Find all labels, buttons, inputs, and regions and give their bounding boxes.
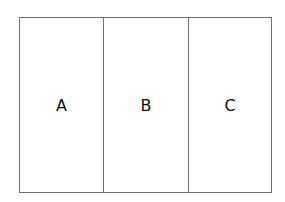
panel-a: A [20, 18, 104, 192]
panel-c-label: C [224, 96, 235, 115]
three-panel-diagram: A B C [19, 17, 272, 193]
panel-a-label: A [56, 96, 67, 115]
panel-b-label: B [141, 96, 152, 115]
panel-c: C [189, 18, 271, 192]
panel-b: B [104, 18, 189, 192]
